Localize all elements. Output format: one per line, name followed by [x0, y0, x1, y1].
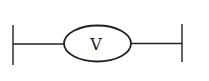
voltmeter-diagram: V [0, 0, 209, 81]
voltmeter-label: V [89, 35, 102, 54]
